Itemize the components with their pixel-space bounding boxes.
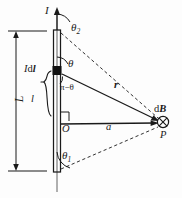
label-origin: O xyxy=(62,124,70,135)
current-wire xyxy=(54,30,61,172)
diagram-canvas xyxy=(0,0,182,198)
dashed-line-theta2 xyxy=(61,33,158,118)
label-theta: θ xyxy=(68,58,73,69)
label-current-element-l: l xyxy=(33,63,36,74)
current-direction-arrow xyxy=(54,7,60,30)
label-pi-minus-theta: π−θ xyxy=(60,83,74,92)
label-theta-1: θ1 xyxy=(62,150,71,164)
label-field-B: B xyxy=(159,103,166,114)
label-point-p: P xyxy=(160,130,166,141)
right-angle-mark xyxy=(61,112,69,121)
label-current-element: Idl xyxy=(24,64,36,75)
current-element-marker xyxy=(53,66,62,75)
vector-r xyxy=(62,74,159,121)
field-point-into-page-symbol xyxy=(157,116,168,127)
label-theta-1-subscript: 1 xyxy=(67,155,71,164)
physics-diagram-biot-savart: I θ2 θ π−θ Idl l L O a r θ1 dB P xyxy=(0,0,182,198)
label-radius-r: r xyxy=(114,79,118,90)
dashed-line-theta1 xyxy=(61,127,158,169)
segment-length-brace xyxy=(41,71,51,116)
label-distance-a: a xyxy=(106,122,111,133)
label-field-dB: dB xyxy=(154,104,166,115)
angle-arc-theta2 xyxy=(57,14,70,22)
label-current: I xyxy=(45,5,49,16)
label-wire-length: L xyxy=(13,96,25,103)
label-theta-2: θ2 xyxy=(71,22,80,36)
label-theta-2-subscript: 2 xyxy=(76,27,80,36)
label-segment-l: l xyxy=(31,94,34,105)
